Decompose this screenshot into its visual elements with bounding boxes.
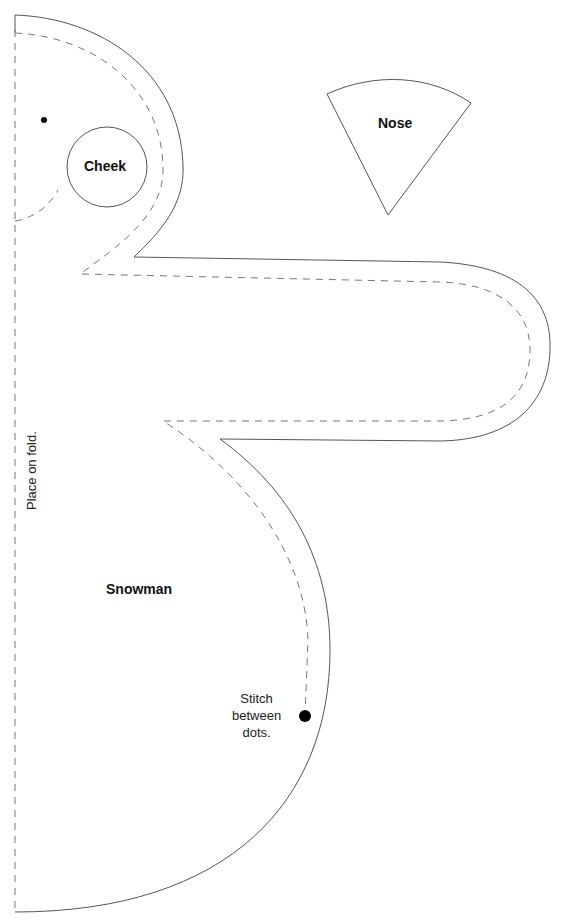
- stitch-label-line1: Stitch: [232, 690, 281, 707]
- stitch-dot: [299, 710, 311, 722]
- nose-label: Nose: [378, 115, 412, 131]
- stitch-label: Stitch between dots.: [232, 690, 281, 741]
- nose-piece: [327, 79, 471, 215]
- eye-marker-dot: [41, 117, 47, 123]
- fold-label: Place on fold.: [24, 431, 39, 510]
- chin-sew-line: [15, 190, 58, 221]
- snowman-label: Snowman: [106, 581, 172, 597]
- cheek-label: Cheek: [84, 158, 126, 174]
- snowman-sew-line-head: [15, 33, 530, 716]
- pattern-canvas: [0, 0, 574, 922]
- stitch-label-line2: between: [232, 707, 281, 724]
- snowman-cut-line: [15, 15, 550, 912]
- stitch-label-line3: dots.: [232, 724, 281, 741]
